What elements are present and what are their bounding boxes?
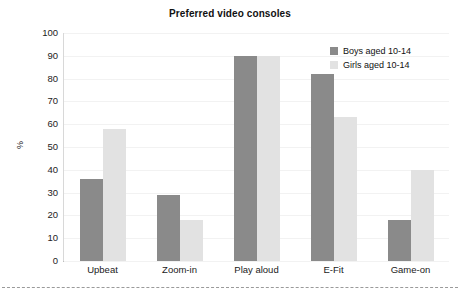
- bar: [80, 179, 103, 261]
- legend-item: Girls aged 10-14: [330, 58, 455, 71]
- y-axis-tick-label: 90: [28, 51, 58, 61]
- bar-group: [218, 33, 295, 261]
- legend-item: Boys aged 10-14: [330, 44, 455, 57]
- bar: [311, 74, 334, 261]
- bar: [234, 56, 257, 261]
- bar: [103, 129, 126, 261]
- y-axis-tick-labels: 1009080706050403020100: [22, 33, 58, 261]
- legend-label: Boys aged 10-14: [343, 46, 411, 56]
- y-axis-tick-label: 70: [28, 96, 58, 106]
- y-axis-tick-label: 60: [28, 119, 58, 129]
- gridline: [64, 261, 449, 262]
- x-axis-category-label: E-Fit: [295, 264, 372, 275]
- bar-chart: Preferred video consoles % 1009080706050…: [0, 0, 460, 298]
- x-axis-category-label: Upbeat: [64, 264, 141, 275]
- y-axis-tick-label: 10: [28, 233, 58, 243]
- legend: Boys aged 10-14Girls aged 10-14: [330, 44, 455, 72]
- x-axis-category-label: Zoom-in: [141, 264, 218, 275]
- x-axis-category-labels: UpbeatZoom-inPlay aloudE-FitGame-on: [64, 264, 449, 282]
- chart-title: Preferred video consoles: [0, 8, 460, 19]
- bar-group: [141, 33, 218, 261]
- bar: [388, 220, 411, 261]
- x-axis-category-label: Play aloud: [218, 264, 295, 275]
- bar-group: [64, 33, 141, 261]
- bar: [257, 56, 280, 261]
- y-axis-tick-label: 80: [28, 74, 58, 84]
- legend-label: Girls aged 10-14: [343, 60, 410, 70]
- y-axis-tick-label: 50: [28, 142, 58, 152]
- bottom-divider: [2, 287, 458, 288]
- bar: [411, 170, 434, 261]
- legend-swatch-icon: [330, 47, 338, 55]
- y-axis-tick-label: 30: [28, 188, 58, 198]
- bar: [334, 117, 357, 261]
- bar: [180, 220, 203, 261]
- bar: [157, 195, 180, 261]
- y-axis-tick-label: 100: [28, 28, 58, 38]
- y-axis-tick-label: 40: [28, 165, 58, 175]
- y-axis-tick-label: 20: [28, 210, 58, 220]
- legend-swatch-icon: [330, 61, 338, 69]
- x-axis-category-label: Game-on: [372, 264, 449, 275]
- y-axis-tick-label: 0: [28, 256, 58, 266]
